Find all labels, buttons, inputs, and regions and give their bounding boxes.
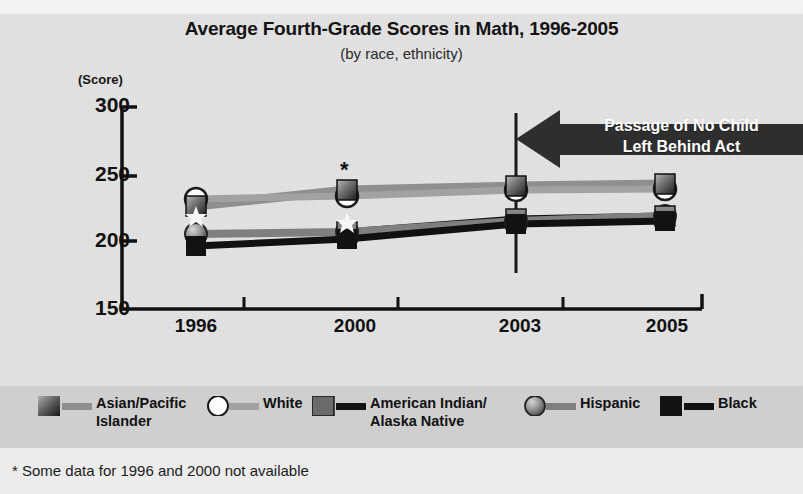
square-shaded-icon: [38, 396, 92, 416]
footnote-text: * Some data for 1996 and 2000 not availa…: [12, 462, 309, 479]
legend-label-line1: American Indian/: [370, 394, 545, 412]
nclb-callout-line2: Left Behind Act: [560, 136, 803, 157]
asterisk-annotation: *: [340, 163, 349, 177]
circle-white-icon: [205, 396, 259, 416]
chart-svg: [0, 0, 803, 380]
square-black-icon: [660, 396, 714, 416]
chart-plot-area: 300 250 200 150 1996 2000 2003 2005: [0, 0, 803, 380]
nclb-callout-line1: Passage of No Child: [560, 115, 803, 136]
square-gray-icon: [312, 396, 366, 416]
series-line-white: [196, 189, 665, 199]
legend-label-line2: Alaska Native: [370, 412, 545, 430]
nclb-callout-text: Passage of No Child Left Behind Act: [560, 115, 803, 157]
legend-label-line1: Black: [718, 394, 803, 412]
circle-shaded-icon: [522, 396, 576, 416]
